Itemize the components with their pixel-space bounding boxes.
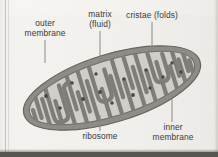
ribosome-dot [131,93,135,97]
ribosome-dot [122,77,126,81]
ribosome-dot [170,61,173,64]
ribosome-dot [44,94,48,98]
page-right-edge [214,0,218,157]
label-outer-membrane: outer membrane [17,19,73,38]
ribosome-dot [161,75,165,79]
figure-page: outer membrane matrix (fluid) cristae (f… [0,0,218,157]
label-ribosome: ribosome [74,132,126,142]
page-bottom-edge [0,152,218,157]
ribosome-dot [110,101,114,105]
ribosome-dot [144,68,148,72]
ribosome-dot [98,90,102,94]
ribosome-dot [58,106,62,110]
label-matrix: matrix (fluid) [76,10,124,29]
ribosome-dot [81,97,85,101]
ribosome-dot [94,72,97,75]
ribosome-dot [179,70,182,73]
ribosome-dot [148,86,151,89]
label-inner-membrane: inner membrane [145,123,201,142]
ribosome-dot [70,81,74,85]
label-cristae: cristae (folds) [119,11,185,21]
